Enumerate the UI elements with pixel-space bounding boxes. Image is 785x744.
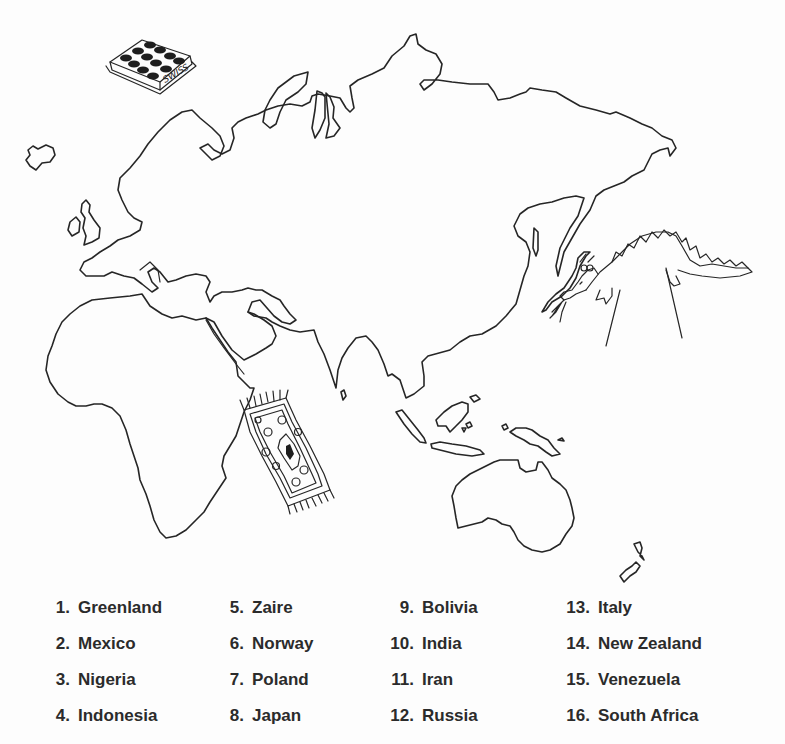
country-item: 8.Japan <box>218 706 313 742</box>
country-list-column-3: 9.Bolivia 10.India 11.Iran 12.Russia <box>384 598 478 742</box>
country-list: 1.Greenland 2.Mexico 3.Nigeria 4.Indones… <box>0 598 785 738</box>
country-name: Italy <box>598 598 632 617</box>
country-name: Poland <box>252 670 309 689</box>
dragon-illustration <box>550 230 752 346</box>
country-item: 12.Russia <box>384 706 478 742</box>
country-list-column-4: 13.Italy 14.New Zealand 15.Venezuela 16.… <box>560 598 702 742</box>
country-list-column-1: 1.Greenland 2.Mexico 3.Nigeria 4.Indones… <box>44 598 162 742</box>
swiss-chocolate-box-illustration: SWISS <box>106 40 196 94</box>
country-item: 11.Iran <box>384 670 478 706</box>
country-name: Bolivia <box>422 598 478 617</box>
country-item: 2.Mexico <box>44 634 162 670</box>
flying-carpet-illustration <box>240 390 334 514</box>
country-name: Nigeria <box>78 670 136 689</box>
country-name: Iran <box>422 670 453 689</box>
country-item: 7.Poland <box>218 670 313 706</box>
country-name: Indonesia <box>78 706 157 725</box>
eastern-hemisphere-map: SWISS <box>0 0 785 590</box>
country-name: Greenland <box>78 598 162 617</box>
country-item: 1.Greenland <box>44 598 162 634</box>
country-name: Norway <box>252 634 313 653</box>
country-name: Japan <box>252 706 301 725</box>
country-name: Russia <box>422 706 478 725</box>
country-name: Venezuela <box>598 670 680 689</box>
country-item: 4.Indonesia <box>44 706 162 742</box>
country-item: 6.Norway <box>218 634 313 670</box>
country-name: New Zealand <box>598 634 702 653</box>
country-item: 13.Italy <box>560 598 702 634</box>
country-item: 16.South Africa <box>560 706 702 742</box>
country-name: India <box>422 634 462 653</box>
country-list-column-2: 5.Zaire 6.Norway 7.Poland 8.Japan <box>218 598 313 742</box>
country-item: 3.Nigeria <box>44 670 162 706</box>
country-item: 15.Venezuela <box>560 670 702 706</box>
country-item: 10.India <box>384 634 478 670</box>
country-item: 5.Zaire <box>218 598 313 634</box>
country-name: Zaire <box>252 598 293 617</box>
country-item: 14.New Zealand <box>560 634 702 670</box>
country-name: South Africa <box>598 706 698 725</box>
country-item: 9.Bolivia <box>384 598 478 634</box>
country-name: Mexico <box>78 634 136 653</box>
